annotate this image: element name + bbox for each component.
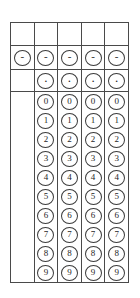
digit-cell[interactable]: 3 — [35, 149, 58, 168]
decimal-point-bubble-5[interactable]: . — [108, 73, 125, 89]
digit-bubble[interactable]: 3 — [108, 151, 125, 167]
minus-sign-cell-5[interactable]: - — [104, 46, 128, 69]
digit-cell[interactable]: 9 — [35, 263, 58, 282]
digit-cell[interactable]: 1 — [105, 111, 128, 130]
digit-bubble[interactable]: 4 — [61, 170, 78, 186]
digit-bubble[interactable]: 8 — [37, 246, 54, 262]
digit-bubble[interactable]: 9 — [108, 265, 125, 281]
digit-bubble[interactable]: 5 — [61, 189, 78, 205]
digit-cell[interactable]: 7 — [35, 225, 58, 244]
digit-cell[interactable]: 3 — [105, 149, 128, 168]
minus-sign-bubble-2[interactable]: - — [37, 50, 54, 66]
digit-cell[interactable]: 0 — [82, 92, 105, 111]
digit-cell[interactable]: 8 — [35, 244, 58, 263]
digit-cell[interactable]: 5 — [35, 187, 58, 206]
digit-bubble[interactable]: 6 — [61, 208, 78, 224]
digit-bubble[interactable]: 9 — [85, 265, 102, 281]
digit-bubble[interactable]: 1 — [108, 113, 125, 129]
digit-cell[interactable]: 0 — [58, 92, 81, 111]
digit-bubble[interactable]: 0 — [37, 94, 54, 110]
digit-cell[interactable]: 9 — [105, 263, 128, 282]
digit-cell[interactable]: 9 — [58, 263, 81, 282]
digit-bubble[interactable]: 4 — [37, 170, 54, 186]
digit-bubble[interactable]: 6 — [37, 208, 54, 224]
digit-bubble[interactable]: 1 — [61, 113, 78, 129]
digit-cell[interactable]: 5 — [82, 187, 105, 206]
digit-bubble[interactable]: 3 — [61, 151, 78, 167]
decimal-point-cell-2[interactable]: . — [34, 70, 58, 91]
digit-bubble[interactable]: 2 — [108, 132, 125, 148]
digit-bubble[interactable]: 2 — [37, 132, 54, 148]
minus-sign-cell-2[interactable]: - — [34, 46, 58, 69]
digit-cell[interactable]: 4 — [35, 168, 58, 187]
write-in-box-5[interactable] — [104, 23, 128, 45]
digit-bubble[interactable]: 9 — [37, 265, 54, 281]
minus-sign-cell-3[interactable]: - — [57, 46, 81, 69]
digit-cell[interactable]: 6 — [82, 206, 105, 225]
digit-bubble[interactable]: 1 — [85, 113, 102, 129]
digit-cell[interactable]: 2 — [82, 130, 105, 149]
digit-bubble[interactable]: 7 — [61, 227, 78, 243]
digit-cell[interactable]: 6 — [35, 206, 58, 225]
digit-bubble[interactable]: 1 — [37, 113, 54, 129]
digit-cell[interactable]: 4 — [82, 168, 105, 187]
digit-bubble[interactable]: 9 — [61, 265, 78, 281]
digit-cell[interactable]: 5 — [105, 187, 128, 206]
digit-bubble[interactable]: 0 — [108, 94, 125, 110]
digit-bubble[interactable]: 6 — [108, 208, 125, 224]
digit-cell[interactable]: 7 — [58, 225, 81, 244]
digit-cell[interactable]: 8 — [82, 244, 105, 263]
decimal-point-bubble-3[interactable]: . — [61, 73, 78, 89]
decimal-point-bubble-2[interactable]: . — [37, 73, 54, 89]
minus-sign-cell-1[interactable]: - — [11, 46, 34, 69]
digit-bubble[interactable]: 2 — [85, 132, 102, 148]
digit-cell[interactable]: 3 — [58, 149, 81, 168]
minus-sign-cell-4[interactable]: - — [81, 46, 105, 69]
digit-bubble[interactable]: 5 — [37, 189, 54, 205]
minus-sign-bubble-5[interactable]: - — [108, 50, 125, 66]
digit-cell[interactable]: 3 — [82, 149, 105, 168]
digit-bubble[interactable]: 3 — [85, 151, 102, 167]
digit-bubble[interactable]: 3 — [37, 151, 54, 167]
write-in-box-1[interactable] — [11, 23, 34, 45]
decimal-point-cell-3[interactable]: . — [57, 70, 81, 91]
digit-bubble[interactable]: 6 — [85, 208, 102, 224]
digit-bubble[interactable]: 8 — [108, 246, 125, 262]
digit-cell[interactable]: 6 — [58, 206, 81, 225]
digit-bubble[interactable]: 7 — [85, 227, 102, 243]
digit-cell[interactable]: 1 — [35, 111, 58, 130]
digit-cell[interactable]: 4 — [105, 168, 128, 187]
digit-cell[interactable]: 0 — [105, 92, 128, 111]
digit-cell[interactable]: 1 — [82, 111, 105, 130]
decimal-point-bubble-4[interactable]: . — [85, 73, 102, 89]
digit-bubble[interactable]: 7 — [108, 227, 125, 243]
digit-bubble[interactable]: 4 — [85, 170, 102, 186]
digit-cell[interactable]: 2 — [58, 130, 81, 149]
digit-cell[interactable]: 4 — [58, 168, 81, 187]
digit-bubble[interactable]: 5 — [108, 189, 125, 205]
digit-cell[interactable]: 6 — [105, 206, 128, 225]
digit-bubble[interactable]: 5 — [85, 189, 102, 205]
minus-sign-bubble-1[interactable]: - — [14, 50, 31, 66]
digit-bubble[interactable]: 0 — [61, 94, 78, 110]
minus-sign-bubble-4[interactable]: - — [85, 50, 102, 66]
digit-cell[interactable]: 1 — [58, 111, 81, 130]
digit-bubble[interactable]: 0 — [85, 94, 102, 110]
digit-bubble[interactable]: 4 — [108, 170, 125, 186]
digit-bubble[interactable]: 2 — [61, 132, 78, 148]
digit-cell[interactable]: 2 — [105, 130, 128, 149]
write-in-box-4[interactable] — [81, 23, 105, 45]
digit-cell[interactable]: 8 — [105, 244, 128, 263]
minus-sign-bubble-3[interactable]: - — [61, 50, 78, 66]
digit-bubble[interactable]: 8 — [85, 246, 102, 262]
digit-cell[interactable]: 0 — [35, 92, 58, 111]
digit-cell[interactable]: 2 — [35, 130, 58, 149]
digit-cell[interactable]: 5 — [58, 187, 81, 206]
digit-bubble[interactable]: 8 — [61, 246, 78, 262]
digit-bubble[interactable]: 7 — [37, 227, 54, 243]
write-in-box-2[interactable] — [34, 23, 58, 45]
digit-cell[interactable]: 7 — [105, 225, 128, 244]
digit-cell[interactable]: 7 — [82, 225, 105, 244]
digit-cell[interactable]: 9 — [82, 263, 105, 282]
decimal-point-cell-4[interactable]: . — [81, 70, 105, 91]
